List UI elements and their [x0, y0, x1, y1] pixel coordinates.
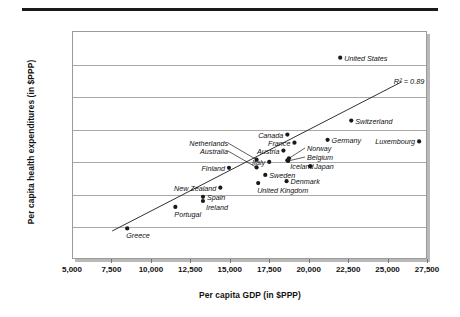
x-axis-tick	[348, 259, 349, 263]
data-point	[284, 179, 288, 183]
x-axis-tick	[111, 259, 112, 263]
data-point	[349, 118, 353, 122]
x-axis-tick	[230, 259, 231, 263]
data-point-label: Austria	[257, 146, 279, 155]
data-point-label: Spain	[207, 192, 225, 201]
data-point	[292, 141, 296, 145]
data-point-label: Portugal	[174, 210, 201, 219]
data-point-label: Italy	[252, 157, 265, 166]
data-point	[201, 199, 205, 203]
data-point	[263, 173, 267, 177]
x-axis-tick-label: 27,500	[397, 265, 457, 274]
data-point	[227, 166, 231, 170]
data-point-label: Australia	[200, 147, 228, 156]
x-axis-tick	[190, 259, 191, 263]
data-point	[125, 226, 129, 230]
data-point	[285, 132, 289, 136]
data-point-label: Belgium	[307, 153, 333, 162]
data-point-label: Luxembourg	[375, 137, 415, 146]
data-point-label: Switzerland	[355, 116, 392, 125]
data-point	[326, 138, 330, 142]
data-point-label: Iceland	[290, 162, 313, 171]
data-point	[201, 195, 205, 199]
scatter-chart-figure: Per capita health expenditures (in $PPP)…	[0, 0, 460, 317]
data-point	[417, 139, 421, 143]
x-axis-tick	[427, 259, 428, 263]
data-point	[218, 186, 222, 190]
x-axis-tick	[269, 259, 270, 263]
data-point-label: Norway	[307, 144, 331, 153]
data-point-label: Germany	[332, 135, 362, 144]
x-axis-tick	[309, 259, 310, 263]
data-point-label: Denmark	[291, 177, 320, 186]
data-point	[281, 148, 285, 152]
data-point-label: Ireland	[206, 203, 228, 212]
trend-line	[112, 82, 402, 231]
data-point	[338, 56, 342, 60]
data-point-label: France	[268, 138, 290, 147]
data-point	[267, 160, 271, 164]
data-point-label: Japan	[314, 162, 334, 171]
label-leader-line	[289, 148, 305, 158]
data-point-label: United States	[344, 53, 387, 62]
data-point-label: Greece	[126, 231, 150, 240]
data-point-label: United Kingdom	[257, 186, 308, 195]
r-squared-annotation: R² = 0.89	[394, 77, 425, 86]
data-point-label: Netherlands	[189, 139, 228, 148]
data-point-label: Finland	[201, 163, 225, 172]
data-point	[173, 205, 177, 209]
data-point	[256, 181, 260, 185]
x-axis-tick	[151, 259, 152, 263]
x-axis-tick	[388, 259, 389, 263]
data-point-label: New Zealand	[174, 183, 216, 192]
